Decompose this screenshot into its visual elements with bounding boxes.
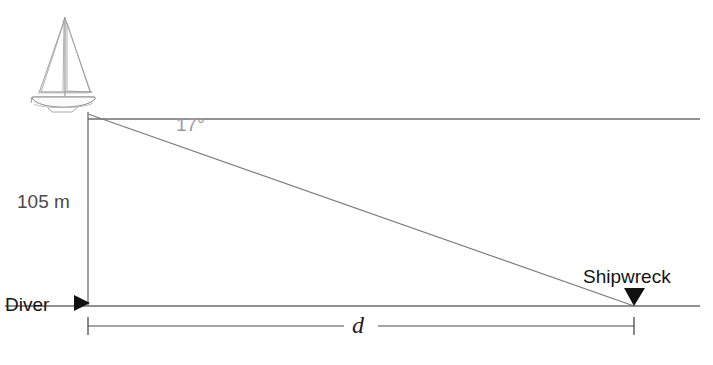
angle-of-depression-label: 17° xyxy=(176,115,205,134)
diagram-canvas: 105 m 17° Diver Shipwreck d xyxy=(0,0,713,365)
sailboat-illustration xyxy=(31,17,95,112)
line-of-sight xyxy=(88,114,634,306)
boat-mainsail xyxy=(67,23,90,92)
depth-label: 105 m xyxy=(17,192,70,211)
distance-label: d xyxy=(352,313,364,337)
diver-label: Diver xyxy=(5,295,49,314)
boat-forestay-line xyxy=(39,18,65,93)
boat-jib-sail xyxy=(41,22,64,92)
shipwreck-label: Shipwreck xyxy=(583,267,671,286)
diagram-svg xyxy=(0,0,713,365)
boat-bow-stem xyxy=(31,97,32,103)
